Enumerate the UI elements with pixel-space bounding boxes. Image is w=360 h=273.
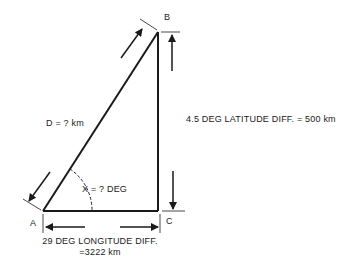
vertex-b-label: B [164, 12, 170, 22]
arrow-down-hypotenuse-icon [29, 172, 50, 201]
vertex-c-label: C [166, 216, 173, 226]
triangle-diagram [0, 0, 360, 273]
hypotenuse-label: D = ? km [46, 118, 84, 128]
longitude-label-line1: 29 DEG LONGITUDE DIFF. [42, 236, 158, 246]
tick-a-diagonal [23, 199, 41, 210]
arrow-up-hypotenuse-icon [121, 29, 142, 58]
angle-label: X = ? DEG [82, 184, 127, 194]
vertex-a-label: A [30, 218, 36, 228]
latitude-label: 4.5 DEG LATITUDE DIFF. = 500 km [186, 114, 336, 124]
longitude-label-line2: =3222 km [42, 247, 158, 257]
tick-b-diagonal [140, 19, 157, 30]
